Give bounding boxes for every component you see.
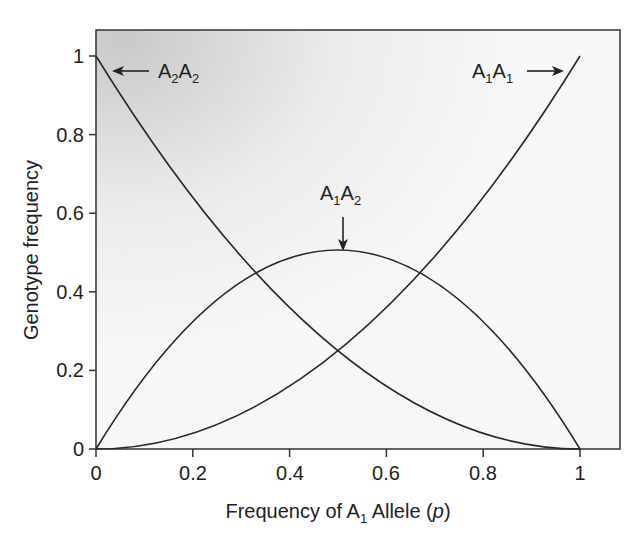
y-tick-0: 0 bbox=[73, 438, 84, 460]
x-axis-ticks bbox=[96, 449, 580, 457]
y-tick-0.6: 0.6 bbox=[56, 202, 84, 224]
x-tick-0.6: 0.6 bbox=[372, 462, 400, 484]
y-axis-title: Genotype frequency bbox=[20, 160, 42, 340]
y-tick-0.4: 0.4 bbox=[56, 281, 84, 303]
y-axis-ticks bbox=[89, 56, 96, 449]
x-tick-0.2: 0.2 bbox=[179, 462, 207, 484]
x-tick-0.8: 0.8 bbox=[469, 462, 497, 484]
x-tick-0: 0 bbox=[90, 462, 101, 484]
y-tick-0.2: 0.2 bbox=[56, 359, 84, 381]
y-tick-0.8: 0.8 bbox=[56, 124, 84, 146]
plot-area bbox=[96, 30, 620, 449]
x-tick-1: 1 bbox=[574, 462, 585, 484]
x-tick-0.4: 0.4 bbox=[276, 462, 304, 484]
x-axis-title: Frequency of A1 Allele (p) bbox=[225, 500, 450, 526]
y-tick-1: 1 bbox=[73, 45, 84, 67]
x-tick-labels: 0 0.2 0.4 0.6 0.8 1 bbox=[90, 462, 585, 484]
genotype-frequency-chart: 0 0.2 0.4 0.6 0.8 1 0 0.2 0.4 0.6 0.8 1 … bbox=[0, 0, 635, 534]
y-tick-labels: 0 0.2 0.4 0.6 0.8 1 bbox=[56, 45, 84, 460]
